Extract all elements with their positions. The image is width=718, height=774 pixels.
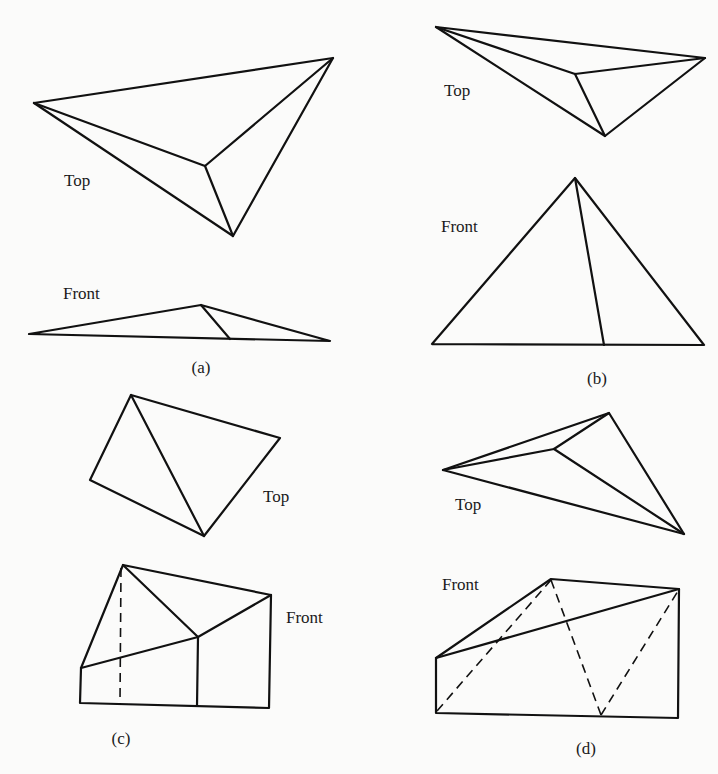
figure-a: Top Front (a) (29, 58, 333, 377)
figure-b: Top Front (b) (432, 27, 705, 388)
outline (34, 58, 333, 236)
edge (81, 595, 271, 668)
caption: (b) (587, 369, 607, 388)
front-label: Front (286, 608, 323, 627)
figure-c-top-view (90, 395, 280, 536)
hidden-edge (120, 568, 121, 703)
figure-a-front-view (29, 305, 330, 341)
front-label: Front (441, 217, 478, 236)
hidden-edge (601, 591, 678, 715)
caption: (c) (112, 729, 131, 748)
figure-c-front-view (80, 565, 271, 708)
orthographic-projections-figure: Top Front (a) Top Front (b) Top (0, 0, 718, 774)
outline (90, 395, 280, 536)
figure-d-front-view (436, 579, 679, 718)
ridge (34, 58, 333, 166)
figure-c: Top Front (c) (80, 395, 323, 748)
edge (575, 178, 604, 345)
top-label: Top (263, 487, 289, 506)
outline (80, 565, 271, 708)
caption: (a) (192, 358, 211, 377)
figure-d: Top Front (d) (436, 413, 684, 758)
front-label: Front (442, 575, 479, 594)
figure-b-front-view (432, 178, 704, 345)
top-label: Top (455, 495, 481, 514)
hidden-edge (551, 580, 601, 715)
figure-a-top-view (34, 58, 333, 236)
diagonal (131, 395, 204, 536)
edge (197, 637, 198, 706)
edge (123, 565, 198, 637)
figure-b-top-view (436, 27, 705, 136)
outline (432, 178, 704, 345)
ridge (436, 27, 705, 74)
outline (443, 413, 684, 534)
top-label: Top (64, 171, 90, 190)
outline (29, 305, 330, 341)
top-label: Top (444, 81, 470, 100)
figure-d-top-view (443, 413, 684, 534)
ridge (554, 449, 684, 534)
caption: (d) (576, 739, 596, 758)
front-label: Front (63, 284, 100, 303)
outline (436, 27, 705, 136)
